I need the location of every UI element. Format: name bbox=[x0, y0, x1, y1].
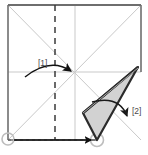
label-step-1: [1] bbox=[38, 58, 47, 68]
origami-diagram: [1] [2] bbox=[0, 0, 148, 155]
crease-lines bbox=[8, 5, 141, 140]
label-step-2: [2] bbox=[132, 106, 141, 116]
origami-figure-svg: [1] [2] bbox=[0, 0, 148, 155]
